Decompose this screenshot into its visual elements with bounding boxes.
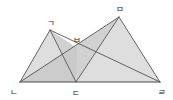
vertex-label-m: ㅁ [116, 4, 124, 14]
vertex-label-d: ㄷ [72, 88, 80, 98]
vertex-label-r: ㄹ [158, 87, 166, 97]
vertex-label-n: ㄴ [10, 87, 18, 97]
vertex-label-b: ㅂ [73, 35, 81, 45]
geometry-figure-container: ㄴㄷㄹㄱㅁㅂ [0, 0, 173, 100]
vertex-label-g: ㄱ [47, 18, 55, 28]
geometry-figure-svg: ㄴㄷㄹㄱㅁㅂ [0, 0, 173, 100]
